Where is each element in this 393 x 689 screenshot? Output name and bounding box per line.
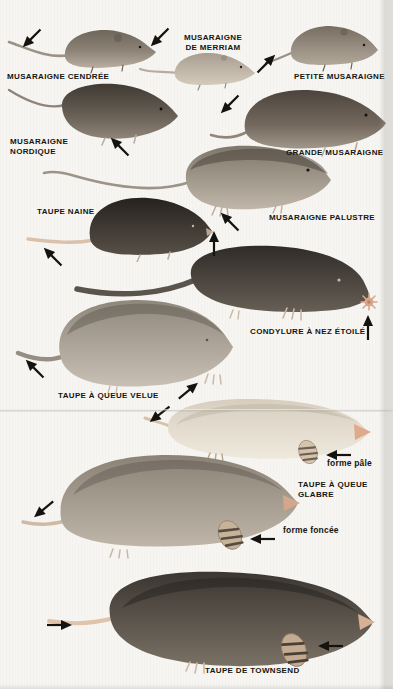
page-bottom-shadow (0, 684, 393, 689)
pointer-arrow-icon (318, 638, 344, 654)
petite-musaraigne-illustration (260, 18, 382, 76)
label-petite-musaraigne: PETITE MUSARAIGNE (294, 72, 385, 82)
taupe-de-townsend-illustration (42, 568, 377, 680)
label-condylure-a-nez-etoile: CONDYLURE À NEZ ÉTOILÉ (250, 327, 366, 337)
label-musaraigne-de-merriam: MUSARAIGNE DE MERRIAM (183, 33, 243, 52)
label-forme-foncee: forme foncée (283, 526, 339, 536)
label-taupe-de-townsend: TAUPE DE TOWNSEND (205, 666, 300, 676)
label-forme-pale: forme pâle (327, 459, 372, 469)
label-musaraigne-nordique: MUSARAIGNE NORDIQUE (10, 137, 68, 156)
taupe-a-queue-velue-illustration (12, 290, 242, 402)
label-musaraigne-palustre: MUSARAIGNE PALUSTRE (269, 213, 375, 223)
pointer-arrow-icon (206, 231, 222, 257)
label-taupe-a-queue-glabre: TAUPE À QUEUE GLABRE (298, 480, 368, 499)
field-guide-plate: MUSARAIGNE CENDRÉE MUSARAIGNE DE MERRIAM… (0, 0, 393, 689)
label-musaraigne-cendree: MUSARAIGNE CENDRÉE (7, 72, 109, 82)
label-taupe-a-queue-velue: TAUPE À QUEUE VELUE (58, 391, 159, 401)
label-grande-musaraigne: GRANDE MUSARAIGNE (286, 148, 384, 158)
taupe-a-queue-glabre-foncee-illustration (15, 445, 307, 570)
pointer-arrow-icon (46, 617, 72, 633)
label-taupe-naine: TAUPE NAINE (37, 207, 94, 217)
pointer-arrow-icon (250, 531, 276, 547)
star-nose (361, 294, 377, 310)
